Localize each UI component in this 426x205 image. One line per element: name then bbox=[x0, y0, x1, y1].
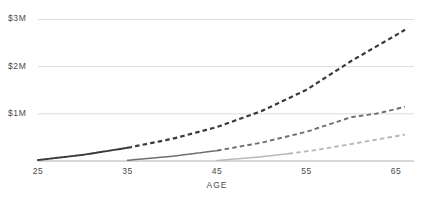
series-start-age-35-solid-segment bbox=[128, 151, 218, 161]
x-tick-35: 35 bbox=[122, 166, 133, 176]
series-start-age-25 bbox=[38, 30, 405, 160]
gridlines bbox=[38, 19, 414, 113]
y-tick-$2M: $2M bbox=[8, 61, 26, 71]
series-start-age-35 bbox=[128, 107, 406, 161]
series-start-age-45-projected-segment bbox=[289, 135, 405, 154]
series-paths bbox=[38, 30, 405, 161]
x-tick-45: 45 bbox=[212, 166, 223, 176]
series-start-age-45 bbox=[217, 135, 405, 161]
x-tick-55: 55 bbox=[301, 166, 312, 176]
x-tick-25: 25 bbox=[33, 166, 44, 176]
x-axis-title: AGE bbox=[207, 180, 228, 190]
x-tick-65: 65 bbox=[391, 166, 402, 176]
series-start-age-25-projected-segment bbox=[128, 30, 406, 148]
growth-projection-chart: $1M$2M$3M 2535455565 AGE bbox=[0, 0, 426, 205]
series-start-age-45-solid-segment bbox=[217, 154, 289, 161]
y-tick-$3M: $3M bbox=[8, 13, 26, 23]
y-tick-$1M: $1M bbox=[8, 108, 26, 118]
series-start-age-25-solid-segment bbox=[38, 148, 128, 160]
